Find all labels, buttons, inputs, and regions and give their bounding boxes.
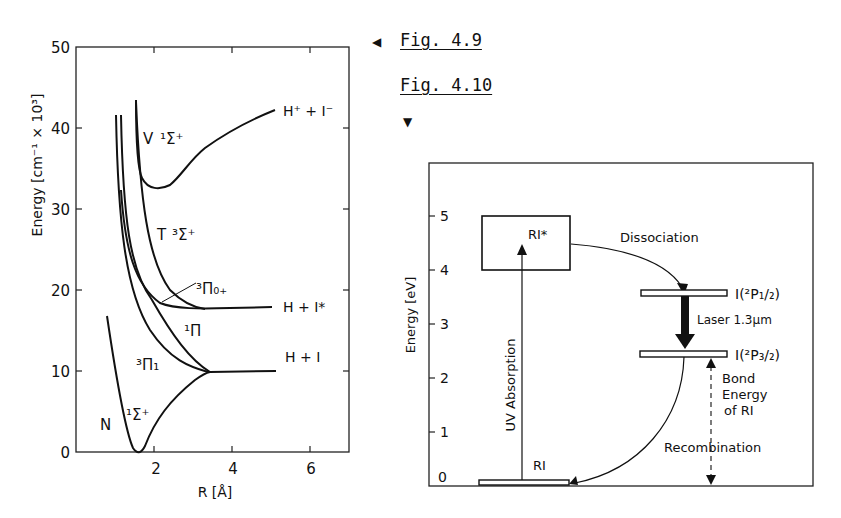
- laser-arrow-head-icon: [675, 334, 695, 349]
- x-axis-label: R [Å]: [198, 484, 233, 500]
- ytick-20: 20: [51, 282, 70, 300]
- ytick-10: 10: [51, 363, 70, 381]
- label-asym-ion: H⁺ + I⁻: [283, 103, 333, 119]
- y-axis-label: Energy [cm⁻¹ × 10³]: [29, 94, 45, 237]
- label-uv-absorption: UV Absorption: [503, 339, 518, 432]
- lower-level-bar: [640, 351, 727, 357]
- label-ri: RI: [533, 458, 546, 473]
- laser-arrow-shaft: [681, 296, 689, 336]
- label-t: T: [156, 226, 167, 244]
- potential-energy-chart: 0 10 20 30 40 50 2 4 6 R [Å] Energy [cm⁻…: [29, 39, 349, 500]
- label-asym-ground: H + I: [285, 349, 320, 365]
- label-asym-star: H + I*: [283, 299, 325, 315]
- label-1pi: ¹Π: [184, 322, 201, 340]
- ground-level-bar: [479, 480, 569, 485]
- bond-energy-arrow-down-icon: [706, 475, 716, 485]
- ytick-50: 50: [51, 39, 70, 57]
- ev-tick-5: 5: [440, 208, 449, 224]
- label-v: V: [143, 130, 154, 148]
- label-lower-level: I(²P₃/₂): [735, 347, 780, 363]
- ev-tick-1: 1: [440, 424, 449, 440]
- recombination-arrow-head-icon: [569, 476, 578, 485]
- xtick-6: 6: [306, 460, 316, 478]
- ev-ticks: [429, 216, 435, 432]
- uv-arrow-head-icon: [517, 244, 527, 255]
- label-v-state: ¹Σ⁺: [160, 130, 183, 148]
- excited-state-box: [482, 216, 570, 270]
- label-bond-3: of RI: [724, 403, 754, 418]
- bond-energy-arrow-up-icon: [706, 358, 716, 368]
- figure-canvas: 0 10 20 30 40 50 2 4 6 R [Å] Energy [cm⁻…: [0, 0, 841, 518]
- label-laser: Laser 1.3μm: [697, 313, 772, 327]
- ev-tick-0: 0: [438, 469, 447, 485]
- xtick-2: 2: [151, 460, 161, 478]
- ev-tick-4: 4: [440, 262, 449, 278]
- ev-axis-label: Energy [eV]: [403, 277, 418, 354]
- ev-tick-3: 3: [440, 316, 449, 332]
- curve-v-state: [136, 100, 275, 188]
- label-3pi1: ³Π₁: [136, 356, 159, 374]
- label-upper-level: I(²P₁/₂): [735, 286, 780, 302]
- label-n: N: [100, 416, 111, 434]
- upper-level-bar: [641, 290, 727, 296]
- label-dissociation: Dissociation: [620, 230, 699, 245]
- xtick-4: 4: [228, 460, 238, 478]
- label-3pi0: ³Π₀₊: [196, 280, 227, 298]
- ytick-30: 30: [51, 201, 70, 219]
- label-t-state: ³Σ⁺: [172, 226, 195, 244]
- ev-tick-2: 2: [440, 370, 449, 386]
- label-bond-1: Bond: [722, 371, 755, 386]
- label-bond-2: Energy: [722, 387, 768, 402]
- recombination-arrow-line: [575, 357, 684, 483]
- potential-curves: [107, 100, 276, 452]
- label-ri-star: RI*: [528, 227, 548, 242]
- ytick-40: 40: [51, 120, 70, 138]
- dissociation-arrow-line: [571, 244, 682, 287]
- label-recombination: Recombination: [664, 440, 761, 455]
- ytick-0: 0: [60, 444, 70, 462]
- energy-level-diagram: 5 4 3 2 1 0 Energy [eV] RI* RI UV Absorp…: [403, 163, 813, 486]
- label-n-state: ¹Σ⁺: [126, 406, 149, 424]
